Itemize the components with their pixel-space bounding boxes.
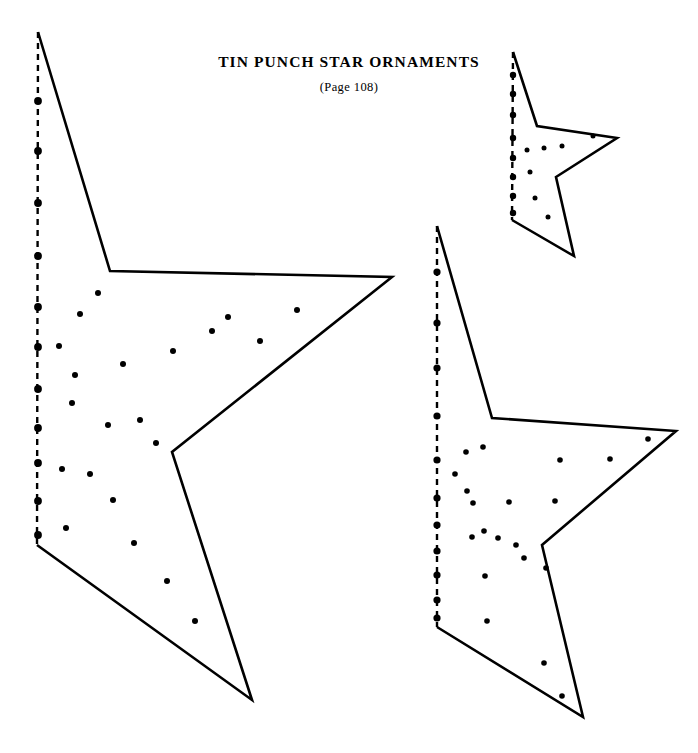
medium-star-punch-dot	[452, 471, 458, 477]
medium-star-punch-dot	[481, 528, 487, 534]
large-star-fold-punch-dot	[34, 385, 42, 393]
large-star-punch-dot	[257, 338, 263, 344]
medium-star-fold-punch-dot	[433, 614, 440, 621]
medium-star-punch-dot	[541, 660, 547, 666]
medium-star-punch-dot	[470, 500, 476, 506]
small-star-fold-punch-dot	[510, 210, 516, 216]
large-star-punch-dot	[87, 471, 93, 477]
medium-star-fold-punch-dot	[433, 571, 440, 578]
medium-star-punch-dot	[464, 488, 470, 494]
medium-star-fold-punch-dot	[433, 547, 440, 554]
large-star-punch-dot	[294, 307, 300, 313]
large-star-punch-dot	[170, 348, 176, 354]
medium-star-punch-dot	[484, 618, 490, 624]
medium-star-fold-punch-dot	[433, 268, 440, 275]
large-star-punch-dot	[131, 540, 137, 546]
medium-star-punch-dot	[607, 456, 613, 462]
large-star-fold-punch-dot	[34, 97, 42, 105]
medium-star-punch-dot	[557, 457, 563, 463]
small-star-punch-dot	[542, 146, 547, 151]
medium-star-fold-punch-dot	[433, 494, 440, 501]
large-star-punch-dot	[72, 372, 78, 378]
large-star-punch-dot	[95, 290, 101, 296]
small-star-fold-punch-dot	[510, 155, 516, 161]
medium-star-punch-dot	[482, 573, 488, 579]
large-star-punch-dot	[63, 525, 69, 531]
large-star-punch-dot	[59, 466, 65, 472]
large-star-punch-dot	[56, 343, 62, 349]
small-star-fold-punch-dot	[510, 135, 516, 141]
small-star-punch-dot	[533, 196, 538, 201]
medium-star-punch-dot	[521, 555, 527, 561]
small-star-fold-punch-dot	[510, 72, 516, 78]
small-star-punch-dot	[591, 134, 596, 139]
large-star-punch-dot	[153, 440, 159, 446]
medium-star-fold-punch-dot	[433, 521, 440, 528]
medium-star-punch-dot	[469, 534, 475, 540]
star-pattern-diagram	[0, 0, 698, 753]
medium-star-punch-dot	[552, 498, 558, 504]
large-star-punch-dot	[69, 400, 75, 406]
medium-star-fold-punch-dot	[433, 596, 440, 603]
medium-star-punch-dot	[495, 535, 501, 541]
large-star-punch-dot	[164, 578, 170, 584]
medium-star-fold-punch-dot	[433, 319, 440, 326]
small-star-fold-punch-dot	[510, 193, 516, 199]
large-star-fold-punch-dot	[34, 497, 42, 505]
large-star-punch-dot	[105, 422, 111, 428]
large-star-punch-dot	[110, 497, 116, 503]
page-background	[0, 0, 698, 753]
small-star-fold-punch-dot	[510, 91, 516, 97]
small-star-punch-dot	[525, 148, 530, 153]
medium-star-punch-dot	[543, 565, 549, 571]
large-star-fold-punch-dot	[34, 459, 42, 467]
small-star-fold-punch-dot	[510, 112, 516, 118]
medium-star-fold-punch-dot	[433, 364, 440, 371]
large-star-punch-dot	[120, 361, 126, 367]
large-star-fold-punch-dot	[34, 424, 42, 432]
large-star-fold-punch-dot	[34, 199, 42, 207]
large-star-fold-punch-dot	[34, 531, 42, 539]
small-star-punch-dot	[546, 215, 551, 220]
large-star-punch-dot	[77, 311, 83, 317]
large-star-punch-dot	[192, 618, 198, 624]
large-star-punch-dot	[209, 328, 215, 334]
medium-star-fold-punch-dot	[433, 456, 440, 463]
large-star-punch-dot	[137, 417, 143, 423]
medium-star-punch-dot	[513, 542, 519, 548]
large-star-punch-dot	[225, 314, 231, 320]
medium-star-fold-punch-dot	[433, 412, 440, 419]
medium-star-punch-dot	[506, 499, 512, 505]
medium-star-punch-dot	[480, 444, 486, 450]
small-star-punch-dot	[560, 144, 565, 149]
pattern-page: TIN PUNCH STAR ORNAMENTS (Page 108)	[0, 0, 698, 753]
small-star-punch-dot	[528, 170, 533, 175]
medium-star-punch-dot	[645, 436, 651, 442]
large-star-fold-punch-dot	[34, 343, 42, 351]
medium-star-punch-dot	[559, 693, 565, 699]
large-star-fold-punch-dot	[34, 303, 42, 311]
small-star-fold-punch-dot	[510, 174, 516, 180]
large-star-fold-punch-dot	[34, 252, 42, 260]
large-star-fold-punch-dot	[34, 147, 42, 155]
medium-star-punch-dot	[463, 449, 469, 455]
